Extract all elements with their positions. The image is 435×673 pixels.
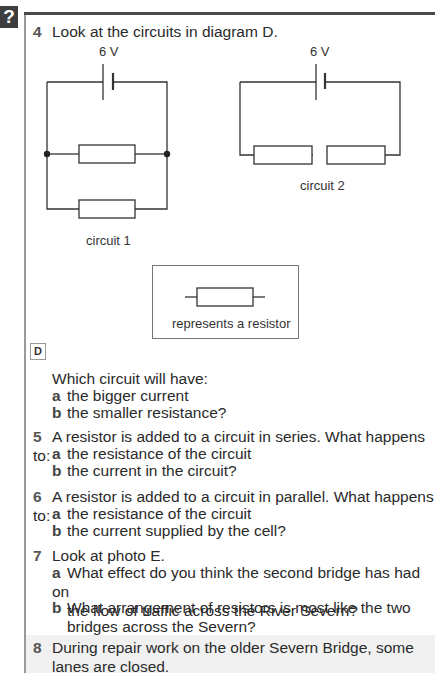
circuit2-voltage: 6 V <box>310 44 330 59</box>
resistor-key-caption: represents a resistor <box>172 316 291 331</box>
part-text-line2: bridges across the Severn? <box>52 617 411 636</box>
part-text: the resistance of the circuit <box>67 505 251 522</box>
part-letter: b <box>52 461 67 480</box>
question-number: 8 <box>33 638 52 657</box>
q6-part-b: bthe current supplied by the cell? <box>52 521 286 540</box>
question-text-line1: During repair work on the older Severn B… <box>52 639 414 656</box>
q7-part-b: bWhat arrangement of resistors is most l… <box>52 598 411 636</box>
question-number: 5 <box>33 427 52 446</box>
part-letter: a <box>52 563 67 582</box>
part-letter: b <box>52 598 67 617</box>
part-text-line1: What effect do you think the second brid… <box>52 564 420 600</box>
question-text-line2: lanes are closed. <box>33 658 169 673</box>
diagram-label: D <box>30 343 46 360</box>
question-text: Look at photo E. <box>52 547 165 564</box>
question-8: 8During repair work on the older Severn … <box>33 638 414 673</box>
part-letter: b <box>52 521 67 540</box>
part-letter: b <box>52 403 67 422</box>
circuit1-voltage: 6 V <box>99 44 119 59</box>
circuit2-caption: circuit 2 <box>300 178 345 193</box>
part-text-line1: What arrangement of resistors is most li… <box>67 599 411 616</box>
part-text: the bigger current <box>67 387 189 404</box>
part-text: the smaller resistance? <box>67 404 226 421</box>
question-number: 7 <box>33 546 52 565</box>
q5-part-b: bthe current in the circuit? <box>52 461 237 480</box>
part-text: the resistance of the circuit <box>67 445 251 462</box>
part-text: the current in the circuit? <box>67 462 237 479</box>
q4-intro-text: Which circuit will have: <box>52 370 208 387</box>
circuit1-caption: circuit 1 <box>86 233 131 248</box>
question-number: 6 <box>33 487 52 506</box>
part-text: the current supplied by the cell? <box>67 522 286 539</box>
q4-part-b: bthe smaller resistance? <box>52 403 226 422</box>
